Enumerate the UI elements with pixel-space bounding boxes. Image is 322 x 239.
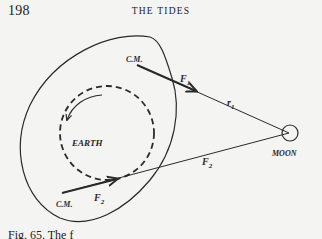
f2-vector-arrow [62,179,117,193]
earth-dashed-circle [60,86,154,180]
tides-diagram: C.M. F1 r1 EARTH MOON F2 F2 C.M. [0,0,322,239]
label-cm-top: C.M. [126,55,142,64]
label-cm-bottom: C.M. [56,200,72,209]
moon-circle [282,125,298,141]
label-f2: F2 [93,192,105,206]
label-earth: EARTH [71,138,104,148]
label-r2: F2 [201,156,213,170]
figure-caption: Fig. 65. The f [8,228,73,239]
rotation-arrow-icon [67,95,102,120]
f1-vector-arrow [137,65,196,91]
label-r1: r1 [227,97,234,111]
label-moon: MOON [271,149,298,158]
